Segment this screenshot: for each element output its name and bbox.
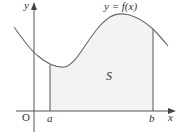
area-under-curve-diagram: y x O a b S y = f(x) (0, 0, 187, 138)
y-axis-label: y (23, 0, 29, 11)
region-s-fill (50, 14, 153, 111)
lower-bound-label: a (47, 112, 53, 124)
region-label: S (106, 69, 112, 83)
x-axis-label: x (167, 111, 173, 123)
origin-label: O (22, 111, 30, 123)
upper-bound-label: b (149, 112, 155, 124)
y-axis-arrow-icon (31, 2, 37, 10)
curve-label: y = f(x) (103, 0, 137, 13)
